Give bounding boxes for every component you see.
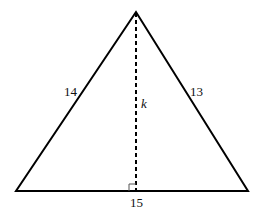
right-side-label: 13 (190, 84, 203, 99)
triangle-diagram: 14 13 15 k (0, 0, 263, 212)
base-label: 15 (130, 195, 143, 210)
right-angle-marker-icon (129, 184, 136, 191)
left-side-label: 14 (64, 84, 78, 99)
triangle-outline (16, 12, 248, 191)
altitude-label: k (141, 96, 147, 111)
